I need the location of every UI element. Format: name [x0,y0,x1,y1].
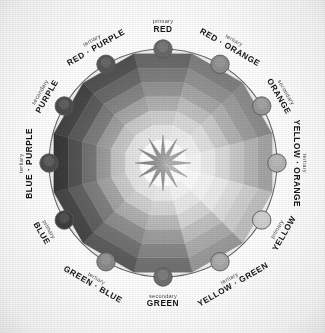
hue-dot-highlight [257,213,267,223]
wheel-sheen [49,49,277,277]
wheel-container [38,38,288,288]
hue-dot-highlight [44,156,54,166]
color-wheel-diagram: primaryREDtertiaryRED · ORANGEsecondaryO… [0,0,325,333]
hue-dot-highlight [257,99,267,109]
wheel-graphic [38,38,288,288]
hue-dot-highlight [158,270,168,280]
hue-dot-highlight [101,255,111,265]
hue-dot-highlight [59,99,69,109]
hue-dot-highlight [101,57,111,67]
hue-dot-highlight [272,156,282,166]
hue-dot-highlight [158,42,168,52]
hue-dot-highlight [215,57,225,67]
hue-dot-highlight [215,255,225,265]
hue-dot-highlight [59,213,69,223]
